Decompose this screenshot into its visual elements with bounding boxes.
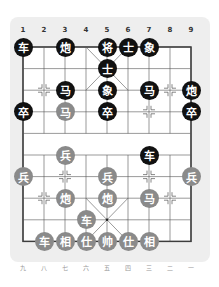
red-piece[interactable]: 相 bbox=[56, 232, 75, 251]
red-piece[interactable]: 炮 bbox=[98, 189, 117, 208]
red-piece[interactable]: 帅 bbox=[98, 232, 117, 251]
black-piece[interactable]: 马 bbox=[56, 81, 75, 100]
red-piece[interactable]: 兵 bbox=[56, 146, 75, 165]
red-piece[interactable]: 仕 bbox=[77, 232, 96, 251]
red-piece[interactable]: 兵 bbox=[98, 167, 117, 186]
red-piece[interactable]: 相 bbox=[140, 232, 159, 251]
red-piece[interactable]: 车 bbox=[35, 232, 54, 251]
black-piece[interactable]: 士 bbox=[119, 38, 138, 57]
red-piece[interactable]: 仕 bbox=[119, 232, 138, 251]
black-piece[interactable]: 马 bbox=[140, 81, 159, 100]
black-piece[interactable]: 车 bbox=[14, 38, 33, 57]
black-piece[interactable]: 卒 bbox=[182, 102, 201, 121]
black-piece[interactable]: 炮 bbox=[56, 38, 75, 57]
black-piece[interactable]: 卒 bbox=[14, 102, 33, 121]
red-piece[interactable]: 兵 bbox=[182, 167, 201, 186]
black-piece[interactable]: 卒 bbox=[98, 102, 117, 121]
red-piece[interactable]: 马 bbox=[56, 102, 75, 121]
black-piece[interactable]: 车 bbox=[140, 146, 159, 165]
black-piece[interactable]: 炮 bbox=[182, 81, 201, 100]
black-piece[interactable]: 象 bbox=[98, 81, 117, 100]
red-piece[interactable]: 炮 bbox=[56, 189, 75, 208]
red-piece[interactable]: 兵 bbox=[14, 167, 33, 186]
black-piece[interactable]: 将 bbox=[98, 38, 117, 57]
red-piece[interactable]: 马 bbox=[140, 189, 159, 208]
black-piece[interactable]: 士 bbox=[98, 59, 117, 78]
red-piece[interactable]: 车 bbox=[77, 210, 96, 229]
black-piece[interactable]: 象 bbox=[140, 38, 159, 57]
